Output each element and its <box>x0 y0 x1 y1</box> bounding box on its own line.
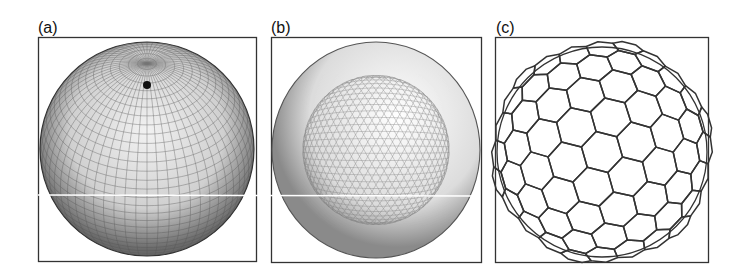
mesh-canvas <box>0 0 745 277</box>
panel-c-frame <box>496 38 709 263</box>
scan-line-artifact <box>38 195 480 196</box>
panel-b-sphere <box>272 42 480 258</box>
panel-c-sphere <box>492 42 713 263</box>
panel-a-sphere <box>40 42 254 256</box>
